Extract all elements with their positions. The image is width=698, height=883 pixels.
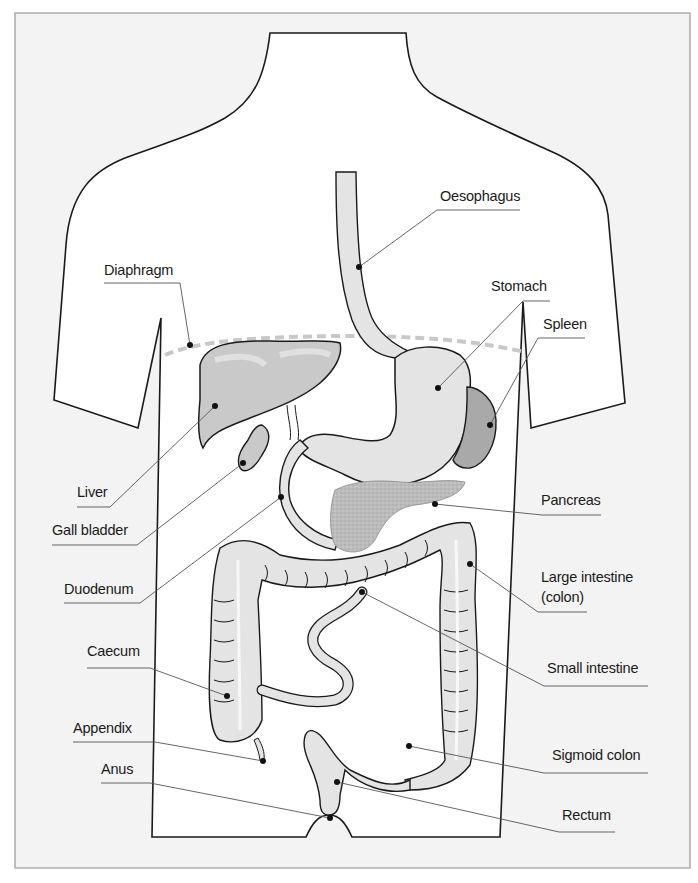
label-large-intestine-colon: (colon) [541,589,584,606]
label-anus: Anus [101,761,133,778]
label-diaphragm: Diaphragm [104,262,173,279]
label-liver: Liver [77,484,107,501]
label-stomach: Stomach [491,278,547,295]
label-spleen: Spleen [543,316,587,333]
label-oesophagus: Oesophagus [440,188,520,205]
label-rectum: Rectum [562,807,611,824]
label-sigmoid-colon: Sigmoid colon [552,747,640,764]
label-small-intestine: Small intestine [547,660,638,677]
label-duodenum: Duodenum [64,581,133,598]
label-caecum: Caecum [87,643,140,660]
label-gall-bladder: Gall bladder [52,522,128,539]
label-large-intestine: Large intestine [541,569,633,586]
label-pancreas: Pancreas [541,492,601,509]
label-appendix: Appendix [73,720,132,737]
